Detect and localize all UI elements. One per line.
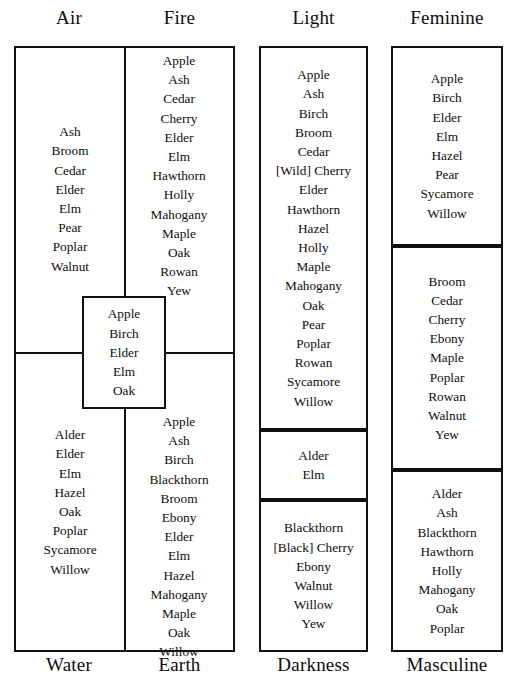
term: Hazel — [431, 146, 462, 165]
term: Cedar — [298, 142, 330, 161]
term: Pear — [58, 218, 82, 237]
cell-light: Apple Ash Birch Broom Cedar [Wild] Cherr… — [261, 48, 366, 428]
center-overlap-box: Apple Birch Elder Elm Oak — [82, 296, 166, 409]
term: Ash — [303, 84, 324, 103]
term: Elm — [168, 546, 190, 565]
term: Ash — [59, 122, 80, 141]
header-air: Air — [14, 6, 124, 30]
term: Poplar — [430, 368, 465, 387]
term: Elm — [59, 199, 81, 218]
term: Maple — [297, 257, 331, 276]
term: Oak — [59, 502, 81, 521]
term: Apple — [108, 304, 141, 323]
term: Poplar — [430, 619, 465, 638]
term: Apple — [297, 65, 330, 84]
cell-feminine: Apple Birch Elder Elm Hazel Pear Sycamor… — [393, 48, 501, 244]
term: Ebony — [162, 508, 197, 527]
term: Elder — [299, 180, 328, 199]
term: [Wild] Cherry — [276, 161, 351, 180]
footer-masculine: Masculine — [391, 653, 503, 677]
header-fire: Fire — [124, 6, 235, 30]
term: Blackthorn — [149, 470, 208, 489]
header-feminine: Feminine — [391, 6, 503, 30]
term: Alder — [432, 484, 462, 503]
term: Elder — [433, 108, 462, 127]
term: Broom — [429, 272, 466, 291]
term: Yew — [435, 425, 459, 444]
term: Yew — [302, 614, 326, 633]
cell-gender-middle: Broom Cedar Cherry Ebony Maple Poplar Ro… — [393, 248, 501, 468]
term: Mahogany — [151, 205, 208, 224]
cell-earth: Apple Ash Birch Blackthorn Broom Ebony E… — [125, 412, 233, 650]
term: Hazel — [298, 219, 329, 238]
term: Birch — [432, 88, 462, 107]
term: Broom — [295, 123, 332, 142]
term: Walnut — [51, 257, 89, 276]
term: Cedar — [431, 291, 463, 310]
term: Oak — [302, 296, 324, 315]
term: Elm — [113, 362, 135, 381]
term: Elder — [56, 180, 85, 199]
term: Hawthorn — [287, 200, 340, 219]
correspondence-table: Air Fire Ash Broom Cedar Elder Elm Pear … — [0, 0, 517, 695]
term: Oak — [168, 623, 190, 642]
term: Hawthorn — [420, 542, 473, 561]
term: Alder — [298, 446, 328, 465]
term: Rowan — [428, 387, 466, 406]
term: Sycamore — [420, 184, 473, 203]
term: Birch — [299, 104, 329, 123]
term: Apple — [163, 412, 196, 431]
term: Elm — [302, 465, 324, 484]
term: Poplar — [53, 237, 88, 256]
term: Poplar — [53, 521, 88, 540]
term: Holly — [164, 185, 194, 204]
term: Broom — [52, 141, 89, 160]
term: Cedar — [54, 161, 86, 180]
term: Rowan — [160, 262, 198, 281]
term: Elder — [110, 343, 139, 362]
term: Cherry — [161, 109, 198, 128]
term: Oak — [436, 599, 458, 618]
term: Pear — [302, 315, 326, 334]
term: [Black] Cherry — [273, 538, 353, 557]
footer-earth: Earth — [124, 653, 235, 677]
term: Willow — [294, 595, 333, 614]
term: Willow — [427, 204, 466, 223]
term: Willow — [50, 560, 89, 579]
term: Holly — [432, 561, 462, 580]
light-darkness-group: Light Apple Ash Birch Broom Cedar [Wild]… — [259, 0, 368, 695]
term: Hazel — [54, 483, 85, 502]
term: Walnut — [294, 576, 332, 595]
term: Elm — [436, 127, 458, 146]
term: Elder — [165, 527, 194, 546]
term: Apple — [431, 69, 464, 88]
term: Ash — [436, 503, 457, 522]
term: Blackthorn — [417, 523, 476, 542]
term: Blackthorn — [284, 518, 343, 537]
term: Cedar — [163, 89, 195, 108]
term: Apple — [163, 51, 196, 70]
term: Sycamore — [43, 540, 96, 559]
term: Maple — [162, 224, 196, 243]
term: Elm — [59, 464, 81, 483]
footer-water: Water — [14, 653, 124, 677]
feminine-masculine-group: Feminine Apple Birch Elder Elm Hazel Pea… — [391, 0, 503, 695]
term: Ebony — [430, 329, 465, 348]
cell-masculine: Alder Ash Blackthorn Hawthorn Holly Maho… — [393, 472, 501, 650]
term: Mahogany — [419, 580, 476, 599]
term: Hawthorn — [152, 166, 205, 185]
term: Cherry — [429, 310, 466, 329]
cell-darkness: Blackthorn [Black] Cherry Ebony Walnut W… — [261, 502, 366, 650]
cell-light-middle: Alder Elm — [261, 432, 366, 498]
term: Ash — [168, 431, 189, 450]
term: Oak — [168, 243, 190, 262]
term: Willow — [294, 392, 333, 411]
term: Maple — [430, 348, 464, 367]
term: Rowan — [295, 353, 333, 372]
term: Maple — [162, 604, 196, 623]
term: Ebony — [296, 557, 331, 576]
term: Poplar — [296, 334, 331, 353]
footer-darkness: Darkness — [259, 653, 368, 677]
term: Alder — [55, 425, 85, 444]
term: Pear — [435, 165, 459, 184]
